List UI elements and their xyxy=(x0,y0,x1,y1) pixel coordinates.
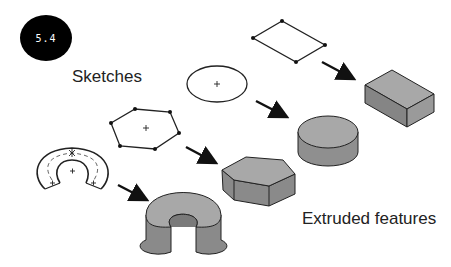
rectangle-sketch xyxy=(251,19,327,64)
arrow-icon xyxy=(256,101,285,116)
arrow-icon xyxy=(118,185,145,199)
arrow-icon xyxy=(186,147,214,162)
diagram-canvas xyxy=(0,0,451,267)
hexagonal-prism xyxy=(222,157,295,206)
c-shape-sketch xyxy=(37,148,108,189)
arrow-icon xyxy=(322,62,352,78)
hexagon-sketch xyxy=(109,107,181,151)
circle-sketch xyxy=(187,66,247,102)
rectangular-block xyxy=(365,70,434,127)
c-shaped-extrusion xyxy=(140,193,227,255)
cylinder xyxy=(298,116,358,166)
